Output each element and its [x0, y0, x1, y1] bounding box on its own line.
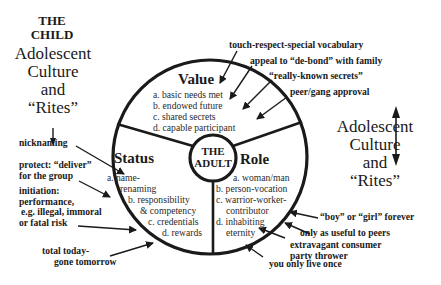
right-culture-line: “Rites”: [328, 172, 422, 190]
annotation-line: gone tomorrow: [42, 257, 116, 268]
value-item: d. capable participant: [153, 122, 235, 133]
value-item: b. endowed future: [153, 100, 235, 111]
the-child-line1: THE: [22, 14, 82, 28]
role-item: a. woman/man: [216, 172, 289, 183]
left-culture-line: Culture: [6, 63, 100, 81]
status-title: Status: [114, 150, 154, 167]
the-adult-label: THE ADULT: [190, 146, 236, 169]
role-item: d. inhabiting: [216, 216, 289, 227]
left-culture-line: and: [6, 81, 100, 99]
annotation-yolo: you only live once: [269, 259, 342, 270]
annotation-total-today: total today- gone tomorrow: [42, 246, 116, 267]
annotation-appeal-debond: appeal to “de-bond” with family: [250, 56, 382, 67]
left-culture-line: Adolescent: [6, 45, 100, 63]
annotation-really-known-secrets: “really-known secrets”: [269, 71, 363, 82]
annotation-boy-girl: “boy” or “girl” forever: [320, 212, 414, 223]
annotation-line: or fatal risk: [19, 218, 102, 229]
status-item: renaming: [107, 183, 211, 194]
right-culture-line: Adolescent: [328, 118, 422, 136]
status-item: c. credentials: [107, 216, 211, 227]
right-culture-heading: Adolescent Culture and “Rites”: [328, 118, 422, 189]
annotation-protect: protect: “deliver” for the group: [19, 160, 92, 181]
value-title: Value: [178, 71, 214, 88]
annotation-initiation: initiation: performance, e.g. illegal, i…: [19, 186, 102, 229]
status-item: & competency: [107, 205, 211, 216]
left-culture-line: “Rites”: [6, 99, 100, 117]
the-child-heading: THE CHILD: [22, 14, 82, 41]
role-item: contributor: [216, 205, 289, 216]
role-item: eternity: [216, 227, 289, 238]
value-item: c. shared secrets: [153, 111, 235, 122]
role-title: Role: [240, 151, 269, 168]
left-culture-heading: Adolescent Culture and “Rites”: [6, 45, 100, 116]
value-items: a. basic needs met b. endowed future c. …: [153, 89, 235, 133]
annotation-nicknaming: nicknaming: [19, 138, 68, 149]
the-adult-line1: THE: [190, 146, 236, 158]
right-culture-line: Culture: [328, 136, 422, 154]
annotation-useful-to-peers: only as useful to peers: [300, 228, 390, 239]
annotation-peer-gang: peer/gang approval: [290, 87, 370, 98]
role-item: b. person-vocation: [216, 183, 289, 194]
the-adult-line2: ADULT: [190, 158, 236, 170]
the-child-line2: CHILD: [22, 28, 82, 42]
value-item: a. basic needs met: [153, 89, 235, 100]
status-item: a. name-: [107, 172, 211, 183]
divider-right: [233, 122, 302, 146]
status-item: d. rewards: [107, 227, 211, 238]
annotation-touch-respect: touch-respect-special vocabulary: [229, 40, 363, 51]
role-items: a. woman/man b. person-vocation c. warri…: [216, 172, 289, 238]
annotation-line: for the group: [19, 171, 92, 182]
right-culture-line: and: [328, 154, 422, 172]
role-item: c. warrior-worker-: [216, 194, 289, 205]
status-item: b. responsibility: [107, 194, 211, 205]
status-items: a. name- renaming b. responsibility & co…: [107, 172, 211, 238]
